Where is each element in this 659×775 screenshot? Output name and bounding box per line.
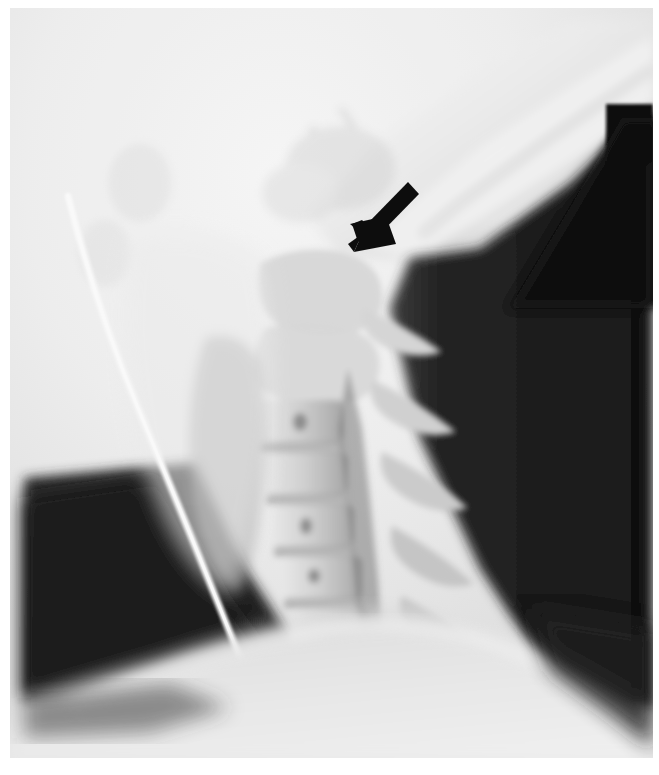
film-grain-overlay bbox=[10, 8, 653, 758]
radiograph-canvas bbox=[10, 8, 653, 758]
radiograph-film bbox=[10, 8, 653, 758]
radiograph-page: X-ray lateral cervical spine down-left 1… bbox=[0, 0, 659, 775]
